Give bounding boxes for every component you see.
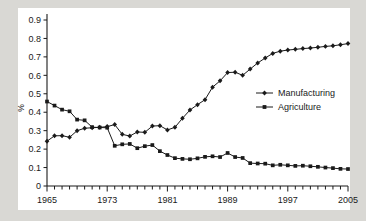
x-tick-label: 1989 xyxy=(218,195,238,205)
x-tick-label: 2005 xyxy=(338,195,358,205)
data-point-marker xyxy=(301,164,305,168)
data-point-marker xyxy=(338,42,343,47)
data-point-marker xyxy=(293,47,298,52)
data-point-marker xyxy=(120,142,124,146)
y-tick-label: 0.4 xyxy=(28,107,41,117)
data-point-marker xyxy=(203,155,207,159)
data-point-marker xyxy=(248,161,252,165)
y-tick-label: 0.3 xyxy=(28,126,41,136)
data-point-marker xyxy=(226,151,230,155)
data-point-marker xyxy=(270,51,275,56)
data-point-marker xyxy=(68,109,72,113)
data-point-marker xyxy=(151,143,155,147)
data-point-marker xyxy=(233,70,238,75)
data-point-marker xyxy=(263,162,267,166)
data-point-marker xyxy=(278,49,283,54)
data-point-marker xyxy=(316,165,320,169)
data-point-marker xyxy=(158,149,162,153)
data-point-marker xyxy=(316,45,321,50)
data-point-marker xyxy=(339,167,343,171)
data-point-marker xyxy=(173,156,177,160)
data-point-marker xyxy=(262,90,267,95)
x-tick-label: 1997 xyxy=(278,195,298,205)
y-tick-label: 0.1 xyxy=(28,163,41,173)
legend-label: Manufacturing xyxy=(278,88,335,98)
y-tick-label: 0.6 xyxy=(28,71,41,81)
data-point-marker xyxy=(241,156,245,160)
data-point-marker xyxy=(45,100,49,104)
legend: ManufacturingAgriculture xyxy=(256,88,335,112)
data-point-marker xyxy=(53,104,57,108)
y-tick-label: 0.8 xyxy=(28,34,41,44)
x-tick-label: 1965 xyxy=(37,195,57,205)
data-point-marker xyxy=(263,105,267,109)
data-point-marker xyxy=(60,133,65,138)
data-point-marker xyxy=(188,157,192,161)
data-point-marker xyxy=(323,44,328,49)
data-point-marker xyxy=(271,163,275,167)
data-point-marker xyxy=(181,157,185,161)
data-point-marker xyxy=(346,167,350,171)
data-point-marker xyxy=(308,46,313,51)
data-point-marker xyxy=(211,154,215,158)
data-point-marker xyxy=(158,123,163,128)
data-point-marker xyxy=(346,41,351,46)
data-point-marker xyxy=(128,142,132,146)
data-point-marker xyxy=(82,126,87,131)
line-chart: 00.10.20.30.40.50.60.70.80.9196519731981… xyxy=(0,0,366,221)
x-tick-label: 1973 xyxy=(97,195,117,205)
data-point-marker xyxy=(166,153,170,157)
data-point-marker xyxy=(135,146,139,150)
data-point-marker xyxy=(263,55,268,60)
data-point-marker xyxy=(105,126,109,130)
data-point-marker xyxy=(309,164,313,168)
data-point-marker xyxy=(218,155,222,159)
data-point-marker xyxy=(331,43,336,48)
y-tick-label: 0.5 xyxy=(28,89,41,99)
x-tick-label: 1981 xyxy=(157,195,177,205)
data-point-marker xyxy=(285,48,290,53)
y-tick-label: 0.7 xyxy=(28,52,41,62)
y-tick-label: 0.2 xyxy=(28,144,41,154)
data-point-marker xyxy=(143,144,147,148)
data-point-marker xyxy=(83,118,87,122)
data-point-marker xyxy=(286,163,290,167)
chart-figure: 00.10.20.30.40.50.60.70.80.9196519731981… xyxy=(0,0,366,221)
data-point-marker xyxy=(165,127,170,132)
data-point-marker xyxy=(324,166,328,170)
data-point-marker xyxy=(135,129,140,134)
data-point-marker xyxy=(127,134,132,139)
y-tick-label: 0.9 xyxy=(28,15,41,25)
data-point-marker xyxy=(233,155,237,159)
data-point-marker xyxy=(331,166,335,170)
data-point-marker xyxy=(256,162,260,166)
data-point-marker xyxy=(278,163,282,167)
legend-label: Agriculture xyxy=(278,102,321,112)
data-point-marker xyxy=(301,46,306,51)
data-point-marker xyxy=(60,108,64,112)
data-point-marker xyxy=(90,125,94,129)
y-tick-label: 0 xyxy=(36,181,41,191)
data-point-marker xyxy=(75,118,79,122)
data-point-marker xyxy=(293,164,297,168)
y-axis-title: % xyxy=(16,104,26,112)
data-point-marker xyxy=(98,126,102,130)
data-point-marker xyxy=(113,144,117,148)
data-point-marker xyxy=(196,156,200,160)
